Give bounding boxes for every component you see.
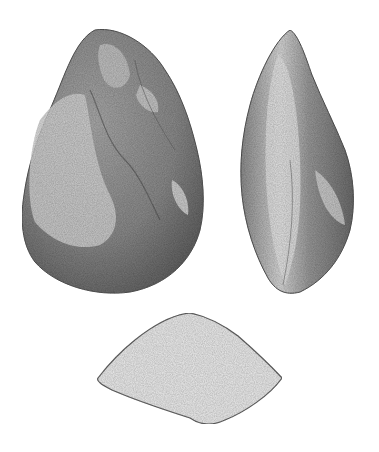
front-view — [22, 29, 203, 293]
hand-axe-plate — [0, 0, 379, 452]
cross-section-view — [98, 313, 282, 424]
side-view — [241, 30, 354, 293]
cross-section-outline — [98, 313, 282, 424]
